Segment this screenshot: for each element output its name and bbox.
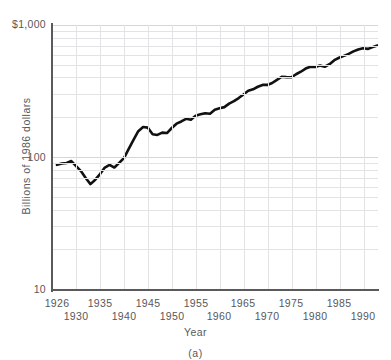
gridline-x-1991 (364, 25, 365, 290)
gridline-x-1976 (292, 25, 293, 290)
x-tick-label-1930: 1930 (59, 310, 93, 322)
y-tick-label-10: 10 (0, 284, 46, 295)
x-tick-label-1955: 1955 (179, 297, 213, 309)
x-tick-label-1950: 1950 (155, 310, 189, 322)
gridline-x-1956 (196, 25, 197, 290)
y-axis-line (51, 23, 53, 292)
x-tick-label-1985: 1985 (322, 297, 356, 309)
x-tick-label-1935: 1935 (83, 297, 117, 309)
gridline-x-1966 (244, 25, 245, 290)
gridline-x-1936 (100, 25, 101, 290)
clipped-header-text (6, 0, 146, 7)
gridline-x-1931 (76, 25, 77, 290)
figure-caption: (a) (0, 347, 391, 359)
figure-panel-a: $1,000 100 10 Billions of 1986 dollars 1… (0, 0, 391, 360)
x-tick-label-1980: 1980 (298, 310, 332, 322)
gridline-x-1941 (124, 25, 125, 290)
y-tick-label-1000: $1,000 (0, 19, 46, 30)
gridline-x-1951 (172, 25, 173, 290)
x-tick-label-1975: 1975 (274, 297, 308, 309)
x-axis-title: Year (0, 326, 391, 338)
x-tick-label-1926: 1926 (40, 297, 74, 309)
x-tick-label-1970: 1970 (250, 310, 284, 322)
gridline-x-1971 (268, 25, 269, 290)
x-tick-label-1960: 1960 (202, 310, 236, 322)
x-tick-label-1990: 1990 (346, 310, 380, 322)
y-axis-title: Billions of 1986 dollars (20, 61, 32, 251)
x-tick-label-1945: 1945 (131, 297, 165, 309)
gridline-x-1961 (220, 25, 221, 290)
x-tick-label-1965: 1965 (226, 297, 260, 309)
gridline-x-1946 (148, 25, 149, 290)
x-axis-line (51, 289, 379, 291)
gridline-x-1986 (340, 25, 341, 290)
plot-area (52, 25, 378, 290)
gridline-x-1981 (316, 25, 317, 290)
x-tick-label-1940: 1940 (107, 310, 141, 322)
